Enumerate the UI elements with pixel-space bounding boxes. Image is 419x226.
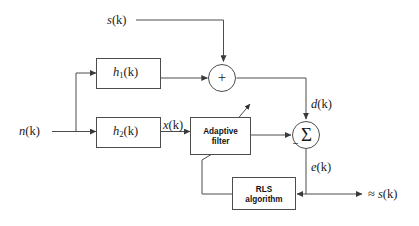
signal-label-output: ≈s(k) xyxy=(368,188,397,201)
signal-label-n: n(k) xyxy=(19,125,40,138)
rls-line-1: RLS xyxy=(233,185,295,195)
diagram-connections xyxy=(0,0,419,226)
block-h2-arg: (k) xyxy=(124,124,139,138)
wire-rls-to-filter xyxy=(202,154,232,194)
sigma-glyph: Σ xyxy=(298,125,315,144)
approx-symbol: ≈ xyxy=(368,187,375,201)
signal-e-arg: (k) xyxy=(317,160,332,174)
block-adaptive-filter-label: Adaptive filter xyxy=(190,127,251,147)
signal-label-e: e(k) xyxy=(311,161,331,174)
wire-s-to-adder xyxy=(136,20,224,62)
adaptive-filter-line-1: Adaptive xyxy=(190,127,251,137)
signal-d-arg: (k) xyxy=(317,97,332,111)
signal-output-arg: (k) xyxy=(383,187,398,201)
wire-n-branch-to-h1 xyxy=(76,73,96,132)
block-h1-arg: (k) xyxy=(124,65,139,79)
signal-n-arg: (k) xyxy=(25,124,40,138)
rls-line-2: algorithm xyxy=(233,195,295,205)
sigma-negative-input-mark: – xyxy=(293,139,298,148)
signal-x-arg: (k) xyxy=(169,118,184,132)
block-rls-label: RLS algorithm xyxy=(233,185,295,205)
wire-adder-to-sigma-d xyxy=(237,78,307,119)
signal-label-d: d(k) xyxy=(311,98,332,111)
block-h1-label: h1(k) xyxy=(113,66,138,80)
signal-s-arg: (k) xyxy=(112,13,127,27)
block-h2-label: h2(k) xyxy=(113,125,138,139)
signal-label-s: s(k) xyxy=(107,14,126,27)
adder-plus-glyph: + xyxy=(215,70,229,85)
adaptive-filter-line-2: filter xyxy=(190,137,251,147)
signal-label-x: x(k) xyxy=(163,119,183,132)
block-diagram-canvas: + Σ – h1(k) h2(k) Adaptive filter RLS al… xyxy=(0,0,419,226)
